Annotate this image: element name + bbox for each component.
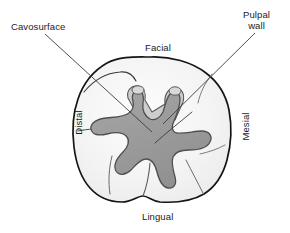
callout-label-cavosurface: Cavosurface [11, 21, 65, 32]
facial-prong-cap-mesial [169, 87, 181, 95]
callout-label-pulpal-wall-line2: wall [243, 20, 270, 31]
orientation-label-lingual: Lingual [142, 211, 173, 222]
orientation-label-facial: Facial [145, 42, 171, 53]
callout-label-pulpal-wall: Pulpal wall [243, 9, 270, 31]
orientation-label-mesial: Mesial [240, 110, 251, 144]
orientation-label-distal: Distal [73, 106, 84, 140]
callout-label-pulpal-wall-line1: Pulpal [243, 9, 270, 20]
facial-prong-cap-distal [132, 86, 144, 94]
